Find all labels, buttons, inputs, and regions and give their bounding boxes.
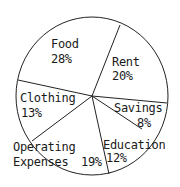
label-food-pct: 28% xyxy=(51,53,72,65)
label-rent-pct: 20% xyxy=(112,70,133,82)
label-clothing-pct: 13% xyxy=(21,107,42,119)
label-savings-pct: 8% xyxy=(137,117,151,129)
label-operating: Operating xyxy=(13,141,75,153)
label-expenses: Expenses xyxy=(13,156,68,168)
label-operating-pct: 19% xyxy=(81,156,102,168)
label-education-pct: 12% xyxy=(106,152,127,164)
label-rent: Rent xyxy=(112,56,140,68)
label-clothing: Clothing xyxy=(20,92,75,104)
label-education: Education xyxy=(103,139,165,151)
label-food: Food xyxy=(51,38,79,50)
label-savings: Savings xyxy=(114,102,162,114)
